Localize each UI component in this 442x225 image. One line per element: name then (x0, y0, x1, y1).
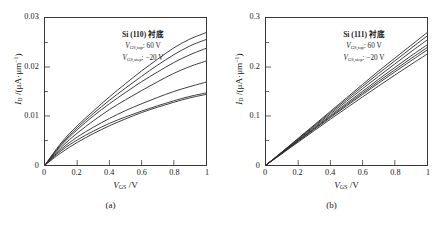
y-axis-unit-exponent: −1 (13, 56, 19, 62)
panel-b-x-axis-title: VGS /V (265, 180, 428, 190)
panel-a-y-axis-title: ID /(μA·μm−1) (13, 19, 23, 139)
panel-b-vgs-top: VGS,top: 60 V (312, 41, 416, 53)
x-tick-label: 0 (30, 168, 58, 177)
x-tick-label: 1 (193, 168, 221, 177)
y-axis-unit: /(μA·μm (13, 63, 23, 98)
panel-a-vgs-step: VGS,step: −20 V (91, 53, 195, 65)
vgs-step-subscript: GS,step (127, 57, 142, 62)
x-tick-label: 1 (414, 168, 442, 177)
panel-b-substrate-label: Si (111) 衬底 (312, 30, 416, 41)
y-axis-unit-exponent: −1 (234, 56, 240, 62)
x-tick-label: 0.4 (316, 168, 344, 177)
x-tick-label: 0 (251, 168, 279, 177)
panel-b-vgs-step: VGS,step: −20 V (312, 53, 416, 65)
panel-a-plot-area: Si (110) 衬底 VGS,top: 60 V VGS,step: −20 … (44, 17, 207, 166)
x-tick-label: 0.2 (63, 168, 91, 177)
y-axis-unit-close: ) (13, 53, 23, 56)
x-tick-label: 0.2 (284, 168, 312, 177)
panel-a-vgs-top: VGS,top: 60 V (91, 41, 195, 53)
figure-iv-characteristics: 0.03 0.02 0.01 0 ID /(μA·μm−1) (0, 0, 442, 225)
x-tick-label: 0.6 (349, 168, 377, 177)
panel-a-substrate-label: Si (110) 衬底 (91, 30, 195, 41)
x-axis-unit: /V (126, 180, 137, 190)
panel-b-annotation: Si (111) 衬底 VGS,top: 60 V VGS,step: −20 … (312, 30, 416, 65)
panel-b: 0.3 0.2 0.1 0 ID /(μA·μm−1) (221, 0, 442, 225)
vgs-step-value: : −20 V (142, 54, 164, 62)
panel-a-annotation: Si (110) 衬底 VGS,top: 60 V VGS,step: −20 … (91, 30, 195, 65)
vgs-step-value: : −20 V (363, 54, 385, 62)
y-axis-unit-close: ) (234, 53, 244, 56)
x-tick-label: 0.8 (160, 168, 188, 177)
vgs-top-value: : 60 V (143, 42, 161, 50)
y-axis-symbol: I (234, 102, 244, 105)
panel-a-x-axis-title: VGS /V (44, 180, 207, 190)
vgs-top-subscript: GS,top (130, 44, 143, 49)
vgs-top-value: : 60 V (364, 42, 382, 50)
vgs-step-subscript: GS,step (348, 57, 363, 62)
x-axis-unit: /V (347, 180, 358, 190)
x-tick-label: 0.8 (381, 168, 409, 177)
x-tick-label: 0.6 (128, 168, 156, 177)
panel-b-y-axis-title: ID /(μA·μm−1) (234, 19, 244, 139)
panel-b-x-tick-labels: 0 0.2 0.4 0.6 0.8 1 (265, 168, 428, 180)
y-axis-subscript: D (238, 97, 244, 101)
panel-a: 0.03 0.02 0.01 0 ID /(μA·μm−1) (0, 0, 221, 225)
panel-b-caption: (b) (221, 200, 442, 210)
panel-a-caption: (a) (0, 200, 221, 210)
y-axis-unit: /(μA·μm (234, 63, 244, 98)
x-tick-label: 0.4 (95, 168, 123, 177)
panel-a-x-tick-labels: 0 0.2 0.4 0.6 0.8 1 (44, 168, 207, 180)
panel-b-plot-area: Si (111) 衬底 VGS,top: 60 V VGS,step: −20 … (265, 17, 428, 166)
y-axis-symbol: I (13, 102, 23, 105)
vgs-top-subscript: GS,top (351, 44, 364, 49)
y-axis-subscript: D (17, 97, 23, 101)
